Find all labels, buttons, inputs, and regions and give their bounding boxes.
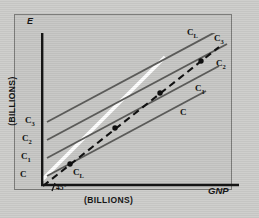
plot-panel: C3 C2 C1 C CL CL C3 C2 bbox=[14, 14, 232, 190]
curve-label-left-C1: C1 bbox=[21, 151, 31, 163]
angle-label: 45° bbox=[56, 183, 67, 192]
figure-root: C3 C2 C1 C CL CL C3 C2 bbox=[0, 0, 259, 218]
x-axis-units-label: (BILLIONS) bbox=[84, 195, 133, 205]
plot-area: C3 C2 C1 C CL CL C3 C2 bbox=[41, 33, 239, 199]
x-axis-symbol: GNP bbox=[208, 185, 229, 196]
intersection-dot-C1 bbox=[112, 125, 117, 130]
chart-svg bbox=[41, 33, 239, 199]
curve-label-left-C3: C3 bbox=[25, 115, 35, 127]
curve-label-right-C: C bbox=[180, 107, 187, 119]
curve-C1 bbox=[47, 66, 219, 158]
curve-label-right-C2: C2 bbox=[216, 58, 226, 70]
curve-label-right-C3: C3 bbox=[214, 33, 224, 45]
y-axis-units-label: (BILLIONS) bbox=[7, 65, 17, 137]
y-axis-symbol: E bbox=[27, 16, 33, 26]
intersection-dot-C3 bbox=[198, 58, 203, 63]
curve-label-left-C2: C2 bbox=[22, 133, 32, 145]
curve-label-right-C1: C1 bbox=[195, 83, 205, 95]
curve-label-right-CL: CL bbox=[187, 27, 198, 39]
intersection-dot-C bbox=[67, 161, 72, 166]
curve-label-left-C: C bbox=[20, 169, 27, 181]
curve-label-left-CL: CL bbox=[73, 167, 84, 179]
line-45-degree bbox=[41, 57, 165, 181]
intersection-dot-C2 bbox=[157, 90, 162, 95]
